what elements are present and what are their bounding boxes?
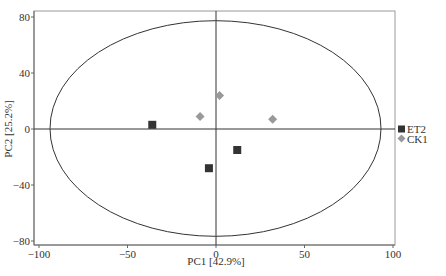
pca-score-plot: −100−50050100 −80−4004080 PC1 [42.9%] PC…: [0, 0, 446, 276]
data-point-square: [148, 121, 156, 129]
legend: ET2CK1: [398, 123, 428, 145]
x-tick-label: 50: [299, 248, 311, 260]
legend-item-ck1: CK1: [398, 133, 428, 145]
legend-square-icon: [398, 126, 405, 133]
legend-label: CK1: [407, 133, 428, 145]
y-tick-label: −80: [13, 235, 31, 247]
series-ck1: [196, 91, 278, 124]
y-tick-label: 40: [19, 67, 31, 79]
y-tick-label: 0: [25, 123, 31, 135]
data-point-square: [233, 146, 241, 154]
y-tick-label: 80: [19, 11, 31, 23]
plot-frame: [34, 11, 395, 245]
x-axis-label: PC1 [42.9%]: [187, 255, 244, 267]
plot-area: [34, 11, 395, 245]
y-axis-label: PC2 [25.2%]: [2, 100, 14, 157]
y-axis-ticks: −80−4004080: [13, 11, 34, 247]
data-point-square: [205, 164, 213, 172]
y-tick-label: −40: [13, 179, 31, 191]
x-tick-label: −100: [28, 248, 51, 260]
x-tick-label: 100: [385, 248, 402, 260]
legend-diamond-icon: [398, 135, 406, 143]
data-point-diamond: [268, 115, 277, 124]
x-tick-label: −50: [119, 248, 137, 260]
data-point-diamond: [196, 112, 205, 121]
